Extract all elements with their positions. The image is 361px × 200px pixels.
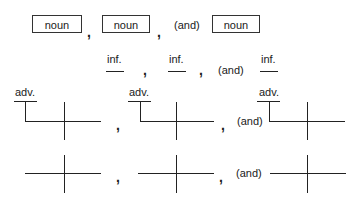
plain-diagram-3 xyxy=(270,155,346,193)
diagram-lines xyxy=(0,0,361,200)
plain-diagram-2 xyxy=(138,155,214,193)
adverb-diagram-1 xyxy=(14,101,101,140)
adverb-diagram-2 xyxy=(128,101,214,140)
adverb-diagram-3 xyxy=(257,101,345,140)
plain-diagram-1 xyxy=(25,155,101,193)
